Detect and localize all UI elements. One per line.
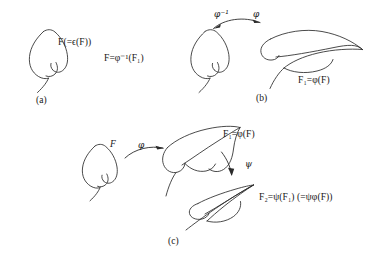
- panel-a-inverse-label: F=φ⁻¹(F₁): [104, 52, 144, 63]
- panel-b-arrow-left-label: φ⁻¹: [214, 9, 229, 19]
- panel-c-mid-label: F₁=φ(F): [223, 129, 255, 139]
- panel-b-tag: (b): [256, 93, 267, 103]
- panel-a-tag: (a): [36, 95, 47, 105]
- panel-c-source-label: F: [110, 139, 116, 149]
- panel-b-result-label: F₁=φ(F): [298, 75, 330, 85]
- panel-c-arrow-phi: [125, 146, 164, 158]
- panel-c-leaf-curve-F: [82, 144, 117, 200]
- panel-c-result-label: F₂=ψ(F₁) (=ψφ(F)): [259, 192, 333, 202]
- panel-b-bidirectional-arrow: [214, 19, 261, 29]
- panel-c-arrow-phi-label: φ: [138, 140, 144, 150]
- figure-canvas: F(=ϵ(F)) F=φ⁻¹(F₁) (a) φ⁻¹ φ F₁=φ(F) (b)…: [0, 0, 381, 262]
- panel-b-arrow-right-label: φ: [253, 9, 259, 19]
- panel-a-leaf-label: F(=ϵ(F)): [58, 37, 91, 47]
- panel-c-tag: (c): [168, 236, 179, 246]
- panel-c-arrow-psi-label: ψ: [245, 159, 252, 169]
- panel-b-leaf-curve-F: [191, 30, 229, 93]
- panel-c-leaf-curve-F2-sheared: [186, 185, 254, 230]
